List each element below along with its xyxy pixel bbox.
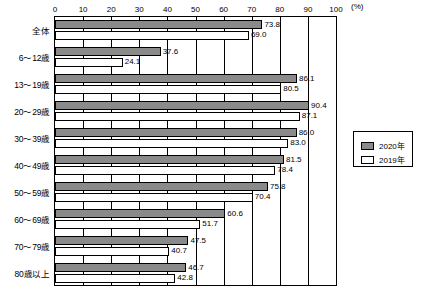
category-label: 80歳以上 bbox=[2, 267, 50, 279]
bar bbox=[55, 209, 225, 218]
legend-swatch bbox=[361, 156, 374, 164]
bar-value-label: 46.7 bbox=[188, 263, 204, 272]
bar-value-label: 80.5 bbox=[283, 84, 299, 93]
x-tick-label: 40 bbox=[155, 5, 179, 14]
x-tick-label: 70 bbox=[240, 5, 264, 14]
bar-value-label: 78.4 bbox=[277, 165, 293, 174]
x-tick-label: 10 bbox=[71, 5, 95, 14]
gridline bbox=[280, 17, 281, 285]
bar bbox=[55, 274, 175, 283]
x-tick-label: 80 bbox=[268, 5, 292, 14]
bar bbox=[55, 47, 161, 56]
x-tick-label: 60 bbox=[212, 5, 236, 14]
bar-value-label: 24.1 bbox=[125, 57, 141, 66]
bar bbox=[55, 20, 262, 29]
bar-value-label: 40.7 bbox=[171, 246, 187, 255]
x-tick-label: 100 bbox=[324, 5, 348, 14]
x-tick-label: 50 bbox=[184, 5, 208, 14]
category-label: 全体 bbox=[2, 24, 50, 36]
gridline bbox=[308, 17, 309, 285]
legend-label: 2020年 bbox=[379, 140, 405, 151]
bar-value-label: 47.5 bbox=[190, 236, 206, 245]
category-label: 6～12歳 bbox=[2, 51, 50, 63]
bar-value-label: 81.5 bbox=[286, 155, 302, 164]
category-label: 50～59歳 bbox=[2, 186, 50, 198]
bar bbox=[55, 101, 309, 110]
bar bbox=[55, 85, 281, 94]
bar-value-label: 86.1 bbox=[299, 74, 315, 83]
x-tick-label: 30 bbox=[127, 5, 151, 14]
bar-value-label: 37.6 bbox=[163, 47, 179, 56]
bar bbox=[55, 236, 188, 245]
bar bbox=[55, 263, 186, 272]
gridline bbox=[224, 17, 225, 285]
bar bbox=[55, 31, 249, 40]
bar-value-label: 42.8 bbox=[177, 273, 193, 282]
plot-area bbox=[54, 16, 337, 286]
bar bbox=[55, 58, 123, 67]
bar bbox=[55, 128, 297, 137]
category-label: 70～79歳 bbox=[2, 240, 50, 252]
category-label: 40～49歳 bbox=[2, 159, 50, 171]
bar-value-label: 75.8 bbox=[270, 182, 286, 191]
legend-swatch bbox=[361, 142, 374, 150]
bar bbox=[55, 166, 275, 175]
legend-item: 2020年 bbox=[361, 140, 405, 151]
bar bbox=[55, 182, 268, 191]
bar bbox=[55, 74, 297, 83]
gridline bbox=[196, 17, 197, 285]
category-label: 20～29歳 bbox=[2, 105, 50, 117]
bar-value-label: 83.0 bbox=[290, 138, 306, 147]
chart-figure: (%) 0102030405060708090100 全体6～12歳13～19歳… bbox=[0, 0, 428, 299]
legend-item: 2019年 bbox=[361, 154, 405, 165]
category-label: 60～69歳 bbox=[2, 213, 50, 225]
bar bbox=[55, 193, 253, 202]
bar bbox=[55, 139, 288, 148]
legend: 2020年2019年 bbox=[353, 131, 413, 167]
bar bbox=[55, 247, 169, 256]
axis-unit-label: (%) bbox=[351, 2, 363, 11]
category-label: 13～19歳 bbox=[2, 78, 50, 90]
bar-value-label: 60.6 bbox=[227, 209, 243, 218]
x-tick-label: 20 bbox=[99, 5, 123, 14]
bar bbox=[55, 155, 284, 164]
category-label: 30～39歳 bbox=[2, 132, 50, 144]
bar bbox=[55, 112, 300, 121]
x-tick-label: 90 bbox=[296, 5, 320, 14]
bar-value-label: 86.0 bbox=[299, 128, 315, 137]
x-tick-label: 0 bbox=[43, 5, 67, 14]
bar-value-label: 73.8 bbox=[264, 20, 280, 29]
bar-value-label: 51.7 bbox=[202, 219, 218, 228]
bar-value-label: 87.1 bbox=[302, 111, 318, 120]
bar-value-label: 70.4 bbox=[255, 192, 271, 201]
bar bbox=[55, 220, 200, 229]
gridline bbox=[252, 17, 253, 285]
legend-label: 2019年 bbox=[379, 154, 405, 165]
bar-value-label: 69.0 bbox=[251, 30, 267, 39]
bar-value-label: 90.4 bbox=[311, 101, 327, 110]
